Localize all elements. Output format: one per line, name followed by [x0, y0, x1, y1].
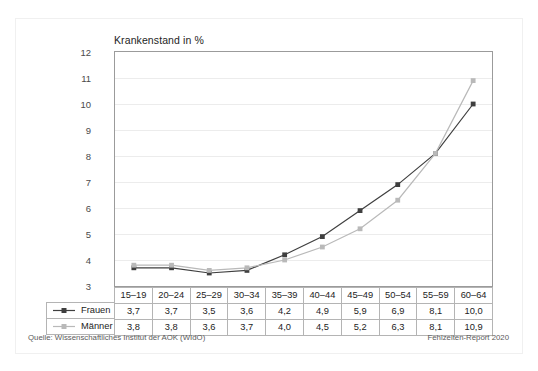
footer-report: Fehlzeiten-Report 2020: [428, 333, 509, 342]
legend-item-frauen[interactable]: Frauen: [47, 303, 115, 318]
table-cell: 3,5: [190, 304, 228, 320]
column-header: 35–39: [266, 288, 304, 304]
table-cell: 3,7: [115, 304, 153, 320]
chart-legend: FrauenMänner: [46, 302, 115, 335]
column-header: 30–34: [228, 288, 266, 304]
column-header: 60–64: [455, 288, 493, 304]
y-axis-tick-label: 11: [61, 73, 91, 84]
table-cell: 4,5: [303, 320, 341, 336]
data-table-body: 15–1920–2425–2930–3435–3940–4445–4950–54…: [115, 288, 493, 336]
y-axis-tick-label: 4: [61, 255, 91, 266]
column-header: 20–24: [152, 288, 190, 304]
y-axis-tick-label: 3: [61, 281, 91, 292]
table-cell: 3,6: [228, 304, 266, 320]
table-cell: 5,2: [341, 320, 379, 336]
legend-marker-icon: [52, 305, 76, 316]
table-cell: 10,0: [455, 304, 493, 320]
y-axis-tick-label: 10: [61, 99, 91, 110]
y-axis-tick-label: 6: [61, 203, 91, 214]
table-cell: 4,0: [266, 320, 304, 336]
legend-label: Männer: [81, 319, 113, 334]
column-header: 15–19: [115, 288, 153, 304]
column-header: 50–54: [379, 288, 417, 304]
table-cell: 4,9: [303, 304, 341, 320]
table-cell: 3,7: [228, 320, 266, 336]
column-header: 55–59: [417, 288, 455, 304]
footer-source: Quelle: Wissenschaftliches Institut der …: [28, 333, 205, 342]
data-table: 15–1920–2425–2930–3435–3940–4445–4950–54…: [114, 287, 493, 336]
column-header: 25–29: [190, 288, 228, 304]
table-cell: 6,9: [379, 304, 417, 320]
table-row: 3,73,73,53,64,24,95,96,98,110,0: [115, 304, 493, 320]
y-axis-tick-label: 12: [61, 47, 91, 58]
table-row: 15–1920–2425–2930–3435–3940–4445–4950–54…: [115, 288, 493, 304]
table-cell: 8,1: [417, 304, 455, 320]
legend-marker-icon: [52, 321, 76, 332]
y-axis-tick-label: 8: [61, 151, 91, 162]
column-header: 45–49: [341, 288, 379, 304]
legend-item-männer[interactable]: Männer: [47, 318, 115, 334]
legend-label: Frauen: [81, 303, 110, 318]
y-axis-tick-label: 7: [61, 177, 91, 188]
figure-container: Krankenstand in % 3456789101112 FrauenMä…: [15, 18, 523, 354]
y-axis-tick-label: 5: [61, 229, 91, 240]
table-cell: 4,2: [266, 304, 304, 320]
y-axis-tick-label: 9: [61, 125, 91, 136]
table-cell: 6,3: [379, 320, 417, 336]
column-header: 40–44: [303, 288, 341, 304]
table-cell: 5,9: [341, 304, 379, 320]
table-cell: 3,7: [152, 304, 190, 320]
